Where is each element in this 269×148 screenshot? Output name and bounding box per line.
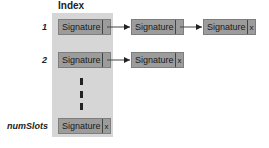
arrows-layer bbox=[0, 0, 269, 148]
